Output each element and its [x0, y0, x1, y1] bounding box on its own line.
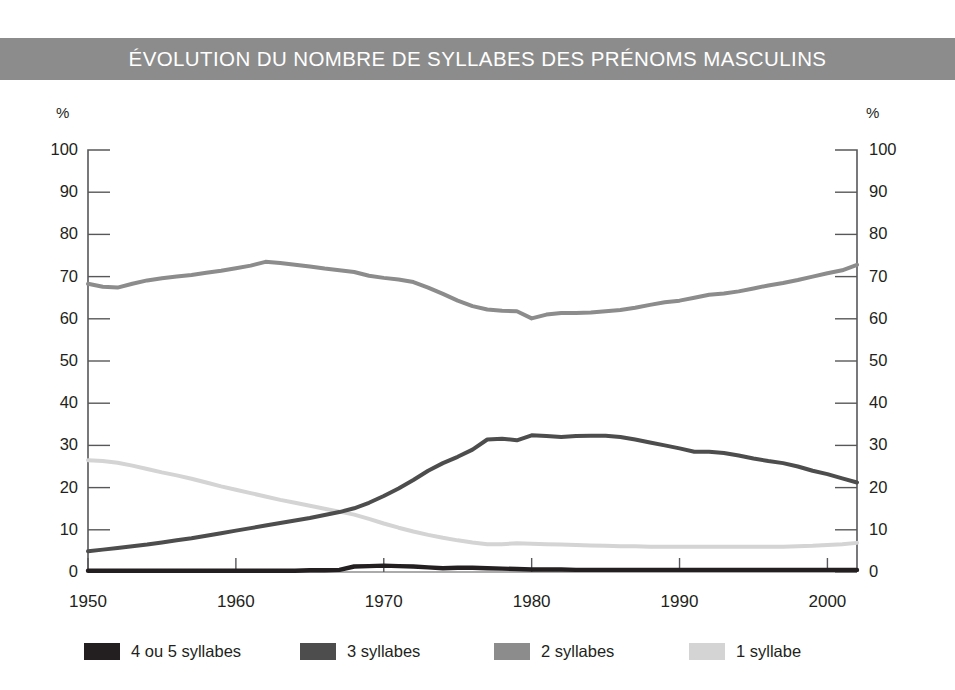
legend-swatch-icon: [689, 643, 725, 660]
axis-layer: [88, 150, 857, 572]
legend-item[interactable]: 3 syllabes: [300, 642, 420, 661]
legend-swatch-icon: [494, 643, 530, 660]
legend-item[interactable]: 4 ou 5 syllabes: [84, 642, 241, 661]
x-tick-label: 2000: [792, 592, 862, 612]
series-line-1-syllabe: [88, 460, 857, 547]
x-tick-label: 1990: [645, 592, 715, 612]
series-line-4-ou-5-syllabes: [88, 566, 857, 571]
legend-swatch-icon: [84, 643, 120, 660]
y-tick-label-right: 90: [869, 182, 911, 201]
legend-item-label: 3 syllabes: [347, 642, 420, 661]
y-tick-label-left: 100: [36, 140, 78, 159]
legend-item-label: 4 ou 5 syllabes: [131, 642, 241, 661]
legend-item-label: 2 syllabes: [541, 642, 614, 661]
y-tick-label-left: 40: [36, 393, 78, 412]
series-layer: [88, 262, 857, 571]
x-tick-label: 1980: [497, 592, 567, 612]
y-tick-label-right: 80: [869, 224, 911, 243]
y-tick-label-left: 50: [36, 351, 78, 370]
y-tick-label-left: 60: [36, 309, 78, 328]
y-tick-label-left: 0: [36, 562, 78, 581]
y-tick-label-left: 90: [36, 182, 78, 201]
legend-item[interactable]: 2 syllabes: [494, 642, 614, 661]
chart-legend: 4 ou 5 syllabes3 syllabes2 syllabes1 syl…: [84, 638, 804, 666]
y-tick-label-right: 40: [869, 393, 911, 412]
y-tick-label-right: 30: [869, 435, 911, 454]
y-tick-label-right: 60: [869, 309, 911, 328]
y-tick-label-right: 0: [869, 562, 911, 581]
x-tick-label: 1950: [53, 592, 123, 612]
legend-item-label: 1 syllabe: [736, 642, 801, 661]
series-line-2-syllabes: [88, 262, 857, 319]
y-tick-label-right: 50: [869, 351, 911, 370]
y-tick-label-left: 70: [36, 267, 78, 286]
y-tick-label-right: 20: [869, 478, 911, 497]
y-tick-label-left: 10: [36, 520, 78, 539]
legend-item[interactable]: 1 syllabe: [689, 642, 801, 661]
y-tick-label-left: 20: [36, 478, 78, 497]
y-tick-label-left: 80: [36, 224, 78, 243]
plot-area: [0, 0, 955, 690]
y-tick-label-right: 70: [869, 267, 911, 286]
x-tick-label: 1970: [349, 592, 419, 612]
y-tick-label-right: 100: [869, 140, 911, 159]
x-tick-label: 1960: [201, 592, 271, 612]
legend-swatch-icon: [300, 643, 336, 660]
y-tick-label-right: 10: [869, 520, 911, 539]
chart-figure: ÉVOLUTION DU NOMBRE DE SYLLABES DES PRÉN…: [0, 0, 955, 690]
series-line-3-syllabes: [88, 435, 857, 551]
y-tick-label-left: 30: [36, 435, 78, 454]
